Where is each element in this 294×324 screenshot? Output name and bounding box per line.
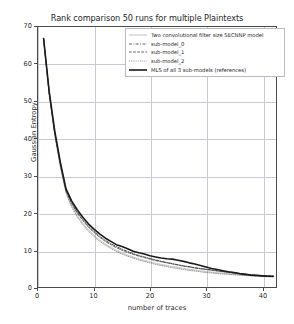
y-tick-mark [34,26,37,27]
legend-line-swatch [128,40,148,48]
legend-label: sub-model_2 [151,58,184,64]
legend-label: sub-model_0 [151,41,184,47]
x-tick-mark [263,288,264,291]
x-axis-label: number of traces [37,304,277,312]
y-tick-label: 50 [2,97,32,105]
y-tick-mark [34,63,37,64]
figure-canvas: Rank comparison 50 runs for multiple Pla… [0,0,294,324]
chart-title: Rank comparison 50 runs for multiple Pla… [0,13,294,23]
y-tick-label: 40 [2,135,32,143]
legend-label: MLS of all 3 sub-models (references) [151,67,246,73]
x-tick-label: 30 [191,292,221,300]
y-tick-label: 70 [2,22,32,30]
x-tick-mark [37,288,38,291]
legend-item[interactable]: sub-model_2 [128,57,281,66]
legend-item[interactable]: Two convolutional filter size SECNNP mod… [128,31,281,40]
y-axis-label: Gaussian Entropy [30,72,38,192]
y-tick-label: 60 [2,60,32,68]
y-tick-mark [34,213,37,214]
legend-label: sub-model_1 [151,49,184,55]
legend-line-swatch [128,57,148,65]
legend-item[interactable]: sub-model_1 [128,48,281,57]
x-tick-mark [206,288,207,291]
x-tick-label: 20 [135,292,165,300]
legend-item[interactable]: sub-model_0 [128,40,281,49]
y-tick-label: 10 [2,247,32,255]
y-tick-label: 20 [2,210,32,218]
legend-box: Two convolutional filter size SECNNP mod… [125,28,285,77]
x-tick-label: 40 [248,292,278,300]
y-tick-mark [34,251,37,252]
legend-line-swatch [128,48,148,56]
legend-line-swatch [128,31,148,39]
x-tick-label: 0 [22,292,52,300]
legend-line-swatch [128,66,148,74]
x-tick-label: 10 [79,292,109,300]
legend-item[interactable]: MLS of all 3 sub-models (references) [128,65,281,74]
x-tick-mark [94,288,95,291]
x-tick-mark [150,288,151,291]
legend-label: Two convolutional filter size SECNNP mod… [151,32,263,38]
y-tick-label: 30 [2,172,32,180]
